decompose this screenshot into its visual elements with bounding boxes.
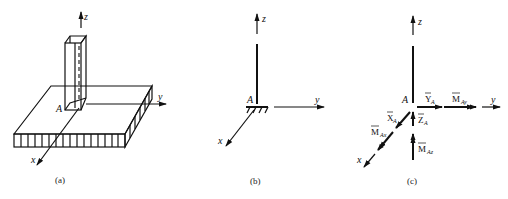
- panel-b: z y x A (b): [217, 13, 324, 186]
- slab-top: [14, 86, 152, 134]
- moment-may-label: M Ay: [452, 93, 467, 105]
- caption-a: (a): [55, 175, 65, 185]
- y-label-a: y: [157, 91, 163, 102]
- caption-c: (c): [407, 176, 417, 186]
- fixed-support-icon: [246, 107, 268, 113]
- figure-canvas: z y x A (a) z y x A (b) z A: [0, 0, 508, 199]
- point-a-label: A: [55, 103, 63, 114]
- panel-c: z A Y A M Ay y X A M Ax: [356, 16, 500, 186]
- x-axis-c: [364, 154, 375, 167]
- moment-maz-label: M Az: [418, 143, 434, 155]
- svg-text:Ay: Ay: [460, 99, 467, 105]
- point-a-label-b: A: [246, 94, 254, 105]
- x-label-b: x: [217, 135, 223, 146]
- y-label-c: y: [490, 94, 496, 105]
- z-label-a: z: [83, 11, 88, 22]
- z-label-b: z: [261, 13, 266, 24]
- reaction-xa-arrow: [396, 112, 410, 128]
- slab-side: [125, 86, 152, 147]
- reaction-xa-label: X A: [387, 112, 397, 124]
- moment-max-label: M Ax: [371, 126, 387, 138]
- caption-b: (b): [250, 176, 261, 186]
- point-a-label-c: A: [401, 94, 409, 105]
- x-label-c: x: [356, 154, 362, 165]
- svg-text:Ax: Ax: [379, 132, 387, 138]
- svg-text:A: A: [392, 118, 397, 124]
- x-axis-a: [37, 108, 79, 165]
- y-label-b: y: [314, 94, 320, 105]
- x-label-a: x: [30, 154, 36, 165]
- z-label-c: z: [417, 16, 422, 27]
- svg-text:A: A: [430, 99, 435, 105]
- panel-a: z y x A (a): [14, 11, 166, 185]
- svg-text:M: M: [452, 94, 460, 104]
- svg-text:Az: Az: [426, 149, 434, 155]
- x-axis-b: [226, 110, 254, 146]
- svg-text:M: M: [371, 127, 379, 137]
- reaction-ya-label: Y A: [425, 93, 435, 105]
- reaction-za-label: Z A: [418, 114, 428, 126]
- column: [65, 36, 86, 110]
- svg-text:M: M: [418, 144, 426, 154]
- svg-text:Z: Z: [418, 115, 424, 125]
- svg-text:A: A: [423, 120, 428, 126]
